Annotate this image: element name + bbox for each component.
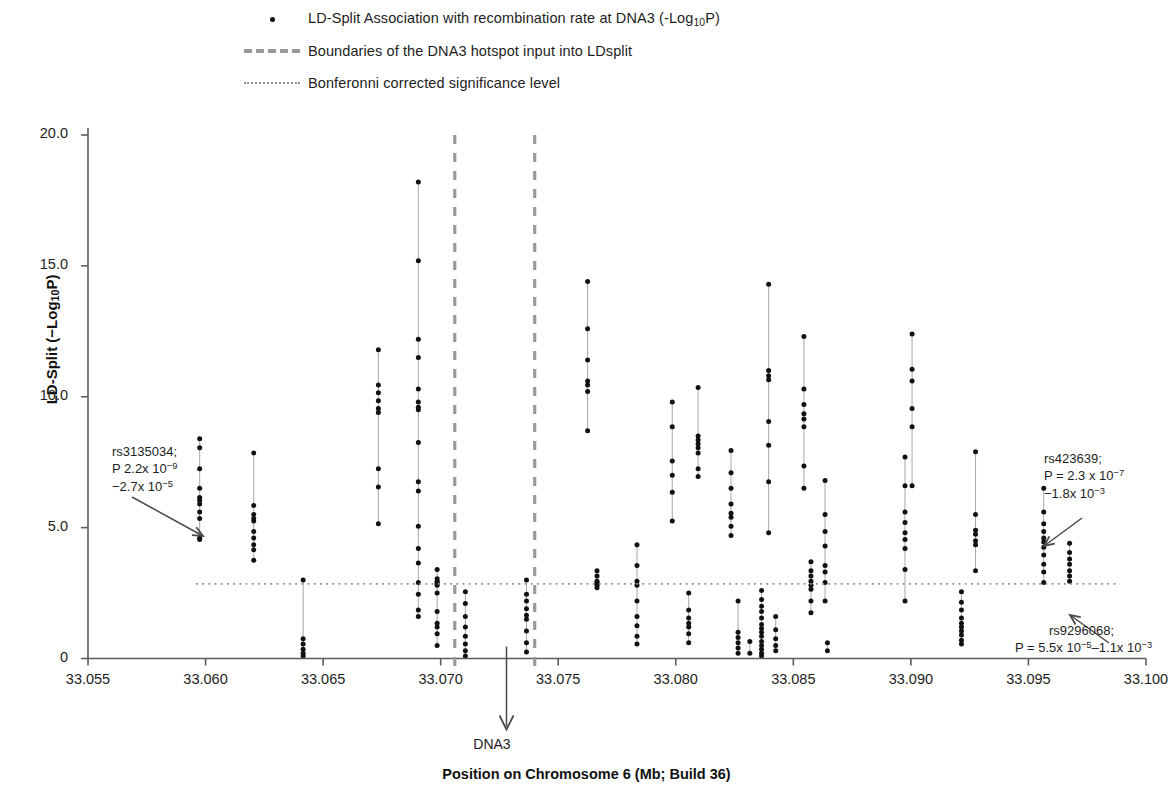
data-point xyxy=(251,451,256,456)
data-point xyxy=(959,632,964,637)
data-point xyxy=(801,424,806,429)
data-point xyxy=(823,570,828,575)
data-point xyxy=(759,653,764,658)
data-point xyxy=(759,615,764,620)
data-point xyxy=(773,636,778,641)
data-point xyxy=(823,512,828,517)
data-point xyxy=(759,597,764,602)
data-point xyxy=(729,524,734,529)
data-point xyxy=(585,279,590,284)
data-point xyxy=(416,258,421,263)
data-point xyxy=(524,577,529,582)
data-point xyxy=(973,542,978,547)
data-point xyxy=(696,474,701,479)
x-axis-tick-label: 33.090 xyxy=(871,671,951,687)
data-point xyxy=(251,547,256,552)
data-point xyxy=(197,537,202,542)
data-point xyxy=(435,567,440,572)
data-point xyxy=(801,402,806,407)
data-point xyxy=(729,515,734,520)
x-axis-tick-label: 33.080 xyxy=(636,671,716,687)
data-point xyxy=(524,640,529,645)
data-point xyxy=(773,643,778,648)
data-point xyxy=(251,536,256,541)
data-point xyxy=(736,651,741,656)
y-axis-tick-label: 5.0 xyxy=(8,518,68,534)
data-point xyxy=(634,598,639,603)
data-point xyxy=(766,479,771,484)
data-point xyxy=(766,368,771,373)
data-point xyxy=(670,473,675,478)
data-point xyxy=(416,524,421,529)
data-point xyxy=(973,568,978,573)
x-axis-ticks xyxy=(88,659,1146,666)
y-axis-tick-label: 15.0 xyxy=(8,256,68,272)
data-point xyxy=(463,601,468,606)
data-point xyxy=(773,614,778,619)
data-point xyxy=(670,458,675,463)
data-point xyxy=(634,542,639,547)
data-point xyxy=(1067,562,1072,567)
data-point xyxy=(301,653,306,658)
data-point xyxy=(301,636,306,641)
data-point xyxy=(416,488,421,493)
data-point xyxy=(686,640,691,645)
data-point xyxy=(759,609,764,614)
dna3-marker-label: DNA3 xyxy=(417,736,567,752)
x-axis-tick-label: 33.100 xyxy=(1106,671,1173,687)
data-point xyxy=(634,614,639,619)
data-point xyxy=(903,546,908,551)
data-point xyxy=(801,416,806,421)
data-point xyxy=(670,399,675,404)
data-point xyxy=(801,334,806,339)
data-point xyxy=(585,358,590,363)
data-point xyxy=(524,649,529,654)
annotation-rs9296068: rs9296068; P = 5.5x 10−5–1.1x 10−3 xyxy=(1049,622,1152,657)
data-point xyxy=(1041,529,1046,534)
data-point xyxy=(197,486,202,491)
data-point xyxy=(823,478,828,483)
data-point xyxy=(435,643,440,648)
data-point xyxy=(463,614,468,619)
data-point xyxy=(251,519,256,524)
data-point xyxy=(416,399,421,404)
data-point xyxy=(1041,562,1046,567)
data-point xyxy=(585,326,590,331)
data-point xyxy=(801,464,806,469)
data-point xyxy=(959,642,964,647)
data-point xyxy=(808,587,813,592)
data-point xyxy=(801,411,806,416)
data-point xyxy=(376,410,381,415)
data-point xyxy=(973,449,978,454)
y-axis-ticks xyxy=(81,135,88,659)
data-point xyxy=(959,608,964,613)
data-point xyxy=(376,382,381,387)
data-point xyxy=(903,530,908,535)
x-axis-tick-label: 33.085 xyxy=(753,671,833,687)
data-point xyxy=(463,634,468,639)
data-point xyxy=(773,627,778,632)
annotation-rs423639-line2: P = 2.3 x 10−7 xyxy=(1044,467,1124,484)
x-axis-tick-label: 33.065 xyxy=(283,671,363,687)
data-point xyxy=(670,424,675,429)
data-point xyxy=(585,382,590,387)
data-point xyxy=(903,454,908,459)
data-point xyxy=(1067,557,1072,562)
annotation-rs3135034-line1: rs3135034; xyxy=(112,443,177,460)
data-point xyxy=(696,451,701,456)
annotation-rs3135034-line2: P 2.2x 10−9 xyxy=(112,460,177,477)
data-point xyxy=(416,608,421,613)
data-point xyxy=(435,625,440,630)
x-axis-tick-label: 33.070 xyxy=(401,671,481,687)
data-point xyxy=(823,598,828,603)
data-point xyxy=(634,634,639,639)
data-point xyxy=(1067,568,1072,573)
data-point xyxy=(416,337,421,342)
data-point xyxy=(736,646,741,651)
annotation-rs423639-line1: rs423639; xyxy=(1044,450,1124,467)
data-point xyxy=(524,592,529,597)
data-point xyxy=(634,642,639,647)
data-point xyxy=(416,560,421,565)
data-point xyxy=(903,483,908,488)
data-point xyxy=(686,591,691,596)
